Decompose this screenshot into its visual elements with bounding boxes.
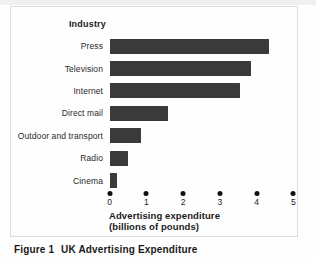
category-label: Internet: [11, 86, 106, 96]
x-axis-label: Advertising expenditure (billions of pou…: [109, 210, 220, 232]
tick-dot-icon: [144, 191, 149, 196]
tick-dot-icon: [107, 191, 112, 196]
tick-label: 3: [217, 198, 222, 207]
bar-rows: PressTelevisionInternetDirect mailOutdoo…: [11, 35, 297, 192]
bar: [110, 61, 252, 76]
figure-title: UK Advertising Expenditure: [61, 244, 197, 255]
category-label: Press: [11, 41, 106, 51]
bar: [110, 128, 141, 143]
bar-row: Cinema: [11, 169, 297, 191]
x-axis-tick: 0: [107, 191, 112, 207]
figure-number: Figure 1: [14, 244, 54, 255]
chart-panel: Industry PressTelevisionInternetDirect m…: [10, 6, 298, 237]
tick-label: 5: [291, 198, 296, 207]
bar-row: Direct mail: [11, 102, 297, 124]
bar: [110, 39, 270, 54]
bar: [110, 173, 117, 188]
x-axis-tick: 3: [217, 191, 222, 207]
bar-row: Internet: [11, 80, 297, 102]
tick-dot-icon: [181, 191, 186, 196]
bar-row: Outdoor and transport: [11, 125, 297, 147]
x-axis-tick: 5: [291, 191, 296, 207]
tick-label: 0: [107, 198, 112, 207]
figure-caption: Figure 1UK Advertising Expenditure: [14, 244, 197, 255]
tick-label: 4: [254, 198, 259, 207]
bar-row: Television: [11, 57, 297, 79]
tick-label: 1: [144, 198, 149, 207]
x-axis-tick: 4: [254, 191, 259, 207]
category-label: Direct mail: [11, 108, 106, 118]
tick-dot-icon: [217, 191, 222, 196]
category-label: Radio: [11, 153, 106, 163]
tick-label: 2: [181, 198, 186, 207]
x-axis-tick: 2: [181, 191, 186, 207]
column-header: Industry: [11, 19, 106, 29]
bar: [110, 151, 128, 166]
bar-row: Radio: [11, 147, 297, 169]
x-axis-tick: 1: [144, 191, 149, 207]
x-axis-label-line2: (billions of pounds): [109, 221, 220, 232]
bar: [110, 106, 169, 121]
scan-artifact-strip: [0, 0, 316, 5]
tick-dot-icon: [254, 191, 259, 196]
category-label: Cinema: [11, 176, 106, 186]
category-label: Outdoor and transport: [11, 131, 106, 141]
category-label: Television: [11, 64, 106, 74]
x-axis-label-line1: Advertising expenditure: [109, 210, 220, 221]
tick-dot-icon: [291, 191, 296, 196]
bar: [110, 83, 241, 98]
bar-row: Press: [11, 35, 297, 57]
